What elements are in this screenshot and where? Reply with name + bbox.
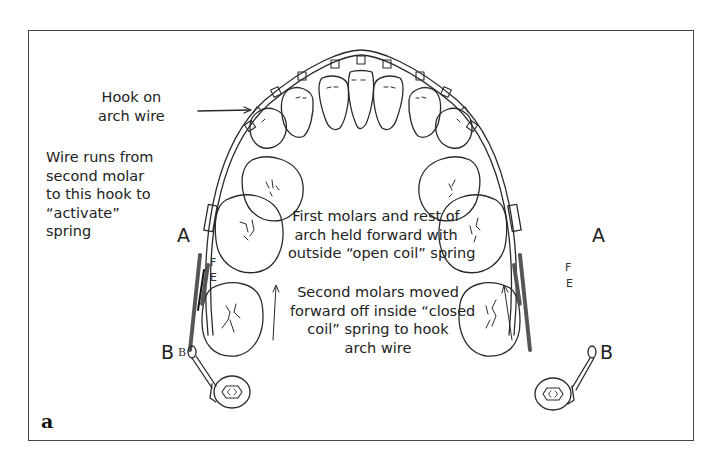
marker-left-b-small: B (178, 346, 186, 359)
marker-left-f: F (210, 256, 216, 269)
hook-pointer-arrow (198, 107, 251, 113)
marker-right-e: E (566, 277, 573, 290)
marker-left-a: A (177, 224, 190, 246)
wire-runs-label: Wire runs from second molar to this hook… (46, 148, 153, 241)
brackets (244, 56, 477, 132)
marker-left-e: E (210, 271, 217, 284)
hook-icon (253, 107, 260, 113)
anterior-teeth (250, 71, 472, 149)
marker-right-a: A (592, 224, 605, 246)
panel-label: a (41, 410, 53, 432)
hook-label: Hook on arch wire (98, 88, 165, 125)
marker-right-b: B (600, 341, 613, 363)
second-molars-label: Second molars moved forward off inside “… (290, 283, 466, 357)
first-molars-label: First molars and rest of arch held forwa… (288, 207, 464, 263)
right-molar-band (535, 346, 596, 410)
marker-left-b: B (161, 341, 174, 363)
marker-right-f: F (565, 261, 571, 274)
